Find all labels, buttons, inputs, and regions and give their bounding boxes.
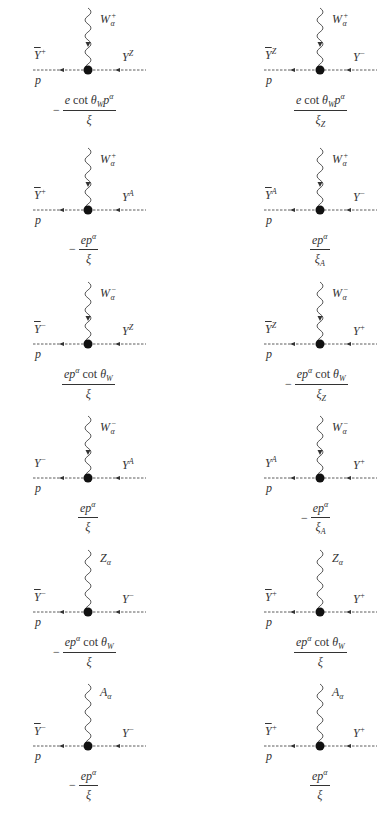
coupling-numerator: epα cot θW — [62, 366, 115, 385]
boson-index: α — [339, 558, 343, 567]
diagram-lines — [231, 140, 385, 274]
vertex-coupling: −epα cot θWξZ — [285, 366, 348, 403]
incoming-field-name: Y — [122, 592, 129, 606]
boson-index: α — [110, 293, 114, 302]
arrow-left-icon — [115, 610, 120, 614]
incoming-field-name: Y — [353, 190, 360, 204]
incoming-field-label: Y− — [353, 48, 365, 63]
gauge-boson-wavy-line — [317, 282, 323, 346]
vertex-coupling: epαξA — [310, 232, 330, 268]
incoming-field-charge: − — [360, 189, 365, 198]
incoming-field-label: YZ — [122, 48, 133, 63]
outgoing-field-name: Y — [34, 456, 41, 470]
coupling-denominator: ξ — [87, 111, 92, 128]
incoming-field-charge: − — [360, 49, 365, 58]
outgoing-field-label: Y+ — [265, 722, 277, 737]
vertex-dot — [316, 608, 325, 617]
arrow-left-icon — [115, 342, 120, 346]
momentum-label: p — [35, 74, 41, 86]
coupling-numerator: e cot θWpα — [63, 92, 116, 111]
boson-index: α — [107, 558, 111, 567]
gauge-boson-wavy-line — [317, 148, 323, 212]
arrow-left-icon — [115, 68, 120, 72]
outgoing-field-name: Y — [265, 48, 272, 62]
arrow-left-icon — [346, 476, 351, 480]
boson-label: W−α — [332, 418, 347, 438]
vertex-dot — [316, 742, 325, 751]
boson-label: W+α — [332, 10, 347, 30]
momentum-label: p — [266, 74, 272, 86]
coupling-numerator: epα cot θW — [63, 634, 116, 653]
arrow-left-icon — [290, 68, 295, 72]
boson-name: W — [100, 152, 110, 166]
outgoing-field-name: Y — [34, 724, 41, 738]
boson-name: W — [100, 286, 110, 300]
minus-sign: − — [53, 103, 60, 118]
momentum-label: p — [266, 214, 272, 226]
outgoing-field-label: Y− — [34, 454, 46, 469]
gauge-boson-wavy-line — [317, 416, 323, 480]
vertex-coupling: −epαξ — [69, 232, 98, 267]
boson-name: W — [100, 12, 110, 26]
vertex-coupling: −e cot θWpαξ — [53, 92, 116, 128]
feynman-vertex-diagram: W−αY−YZpepα cot θWξ — [0, 274, 192, 408]
boson-index: α — [110, 19, 114, 28]
coupling-denominator: ξ — [86, 385, 91, 402]
vertex-coupling: e cot θWpαξZ — [294, 92, 347, 129]
outgoing-field-name: Y — [265, 456, 272, 470]
vertex-dot — [84, 608, 93, 617]
arrow-left-icon — [59, 68, 64, 72]
arrow-left-icon — [115, 476, 120, 480]
outgoing-field-name: Y — [34, 188, 41, 202]
arrow-left-icon — [59, 476, 64, 480]
minus-sign: − — [69, 778, 76, 793]
vertex-dot — [316, 340, 325, 349]
coupling-numerator: epα — [311, 500, 331, 518]
outgoing-field-charge: + — [272, 723, 277, 732]
coupling-denominator: ξ — [86, 250, 91, 267]
incoming-field-name: Y — [122, 324, 129, 338]
incoming-field-label: Y+ — [353, 322, 365, 337]
outgoing-field-charge: − — [41, 455, 46, 464]
boson-label: W+α — [100, 150, 115, 170]
outgoing-field-label: Y+ — [34, 46, 46, 61]
outgoing-field-charge: Z — [272, 47, 276, 56]
arrow-left-icon — [290, 342, 295, 346]
outgoing-field-label: Y+ — [34, 186, 46, 201]
outgoing-field-name: Y — [34, 590, 41, 604]
incoming-field-label: Y− — [353, 188, 365, 203]
coupling-denominator: ξA — [316, 518, 326, 536]
boson-label: W−α — [100, 418, 115, 438]
outgoing-field-charge: + — [272, 589, 277, 598]
boson-label: Aα — [100, 686, 112, 703]
incoming-field-charge: − — [129, 591, 134, 600]
coupling-denominator: ξA — [315, 250, 325, 268]
feynman-vertex-diagram: ZαY−Y−p−epα cot θWξ — [0, 542, 192, 676]
gauge-boson-wavy-line — [85, 282, 91, 346]
incoming-field-label: Y+ — [353, 590, 365, 605]
vertex-coupling: epαξ — [78, 500, 98, 535]
incoming-field-charge: Z — [129, 323, 133, 332]
outgoing-field-name: Y — [265, 590, 272, 604]
boson-name: W — [332, 420, 342, 434]
vertex-dot — [84, 206, 93, 215]
boson-label: W−α — [332, 284, 347, 304]
arrow-left-icon — [290, 744, 295, 748]
boson-name: W — [100, 420, 110, 434]
incoming-field-label: Y+ — [353, 456, 365, 471]
incoming-field-charge: Z — [129, 49, 133, 58]
arrow-left-icon — [290, 208, 295, 212]
arrow-left-icon — [59, 342, 64, 346]
vertex-coupling: epα cot θWξ — [294, 634, 347, 670]
coupling-numerator: epα — [310, 232, 330, 250]
gauge-boson-wavy-line — [85, 684, 91, 748]
outgoing-field-name: Y — [34, 322, 41, 336]
incoming-field-label: YZ — [122, 322, 133, 337]
boson-label: W+α — [332, 150, 347, 170]
incoming-field-name: Y — [353, 324, 360, 338]
momentum-label: p — [35, 214, 41, 226]
incoming-field-charge: A — [129, 189, 134, 198]
minus-sign: − — [285, 377, 292, 392]
boson-label: W+α — [100, 10, 115, 30]
feynman-vertex-diagram: AαY+Y+pepαξ — [231, 676, 385, 810]
